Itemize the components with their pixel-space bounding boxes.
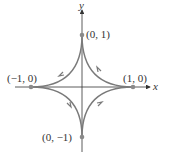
y-axis-label: y bbox=[78, 0, 84, 11]
arrow-lower-left-icon bbox=[67, 102, 71, 107]
arrow-upper-left-icon bbox=[59, 72, 64, 76]
point-top bbox=[80, 33, 85, 38]
point-bottom bbox=[80, 135, 85, 140]
astroid-diagram: x y (0, 1) (−1, 0) (1, 0) (0, −1) bbox=[0, 0, 169, 157]
arrow-upper-right-icon bbox=[97, 67, 101, 72]
point-right bbox=[131, 85, 136, 90]
point-left bbox=[29, 85, 34, 90]
label-right: (1, 0) bbox=[123, 72, 147, 85]
arrow-lower-right-icon bbox=[97, 102, 102, 106]
x-axis-label: x bbox=[152, 80, 158, 92]
label-bottom: (0, −1) bbox=[42, 131, 72, 144]
label-left: (−1, 0) bbox=[7, 72, 37, 85]
label-top: (0, 1) bbox=[86, 28, 110, 41]
